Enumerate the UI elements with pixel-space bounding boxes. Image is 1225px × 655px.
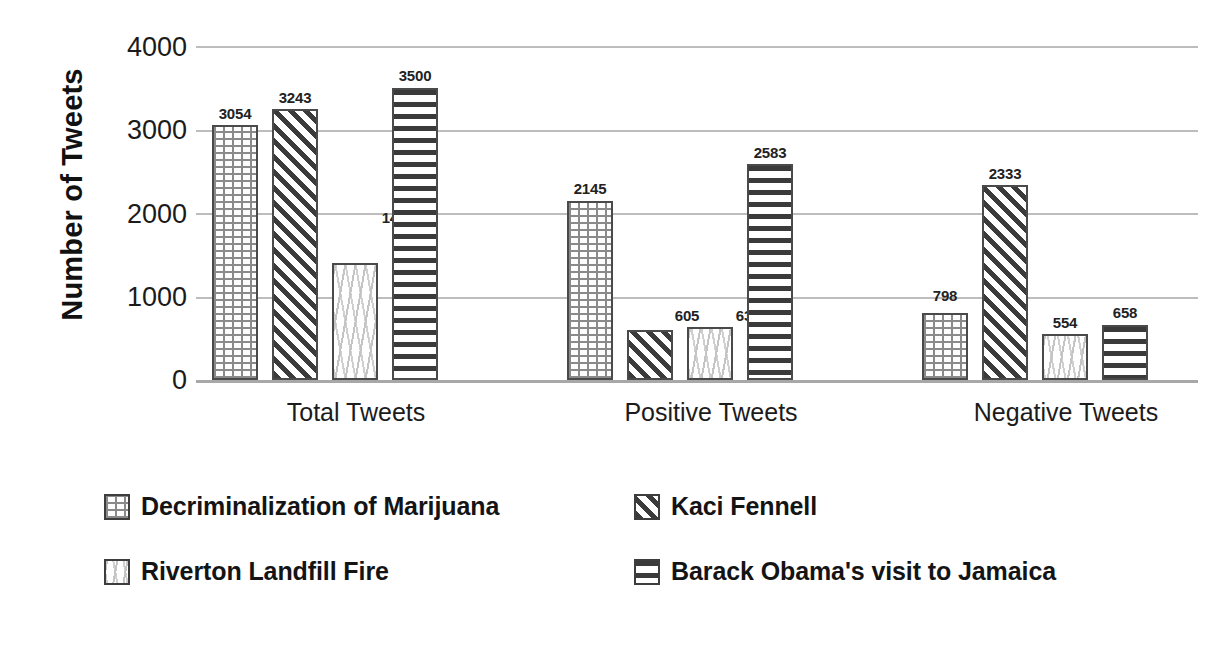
- bar-total-kaci[interactable]: [272, 109, 318, 380]
- bar-group-negative-tweets: 798 2333 554 658: [906, 46, 1225, 380]
- y-tick-label-2000: 2000: [67, 199, 187, 230]
- bar-value-total-marijuana: 3054: [219, 105, 252, 122]
- y-tick-label-0: 0: [67, 365, 187, 396]
- y-tick-label-3000: 3000: [67, 115, 187, 146]
- bar-value-positive-obama: 2583: [754, 144, 787, 161]
- x-category-label-positive-tweets: Positive Tweets: [551, 398, 871, 427]
- bar-group-total-tweets: 3054 3243 1407 3500: [196, 46, 516, 380]
- bar-negative-marijuana[interactable]: [922, 313, 968, 380]
- bar-positive-kaci[interactable]: [627, 330, 673, 381]
- bar-value-positive-marijuana: 2145: [574, 180, 607, 197]
- legend-item-riverton-landfill-fire[interactable]: Riverton Landfill Fire: [104, 557, 634, 586]
- bar-positive-obama[interactable]: [747, 164, 793, 380]
- legend-item-barack-obama-visit[interactable]: Barack Obama's visit to Jamaica: [634, 557, 1144, 586]
- legend-label-riverton-landfill-fire: Riverton Landfill Fire: [141, 557, 389, 586]
- legend-swatch-horizontal-lines-icon: [634, 559, 660, 585]
- legend-swatch-diagonal-hatch-icon: [634, 494, 660, 520]
- y-tick-label-1000: 1000: [67, 282, 187, 313]
- bar-negative-kaci[interactable]: [982, 185, 1028, 380]
- x-category-label-total-tweets: Total Tweets: [196, 398, 516, 427]
- bar-value-positive-kaci: 605: [675, 307, 699, 324]
- bar-group-positive-tweets: 2145 605 633 2583: [551, 46, 871, 380]
- legend-swatch-dotted-grid-icon: [104, 494, 130, 520]
- bar-total-marijuana[interactable]: [212, 125, 258, 380]
- bar-value-negative-riverton: 554: [1053, 314, 1077, 331]
- legend-label-marijuana: Decriminalization of Marijuana: [141, 492, 499, 521]
- bar-positive-marijuana[interactable]: [567, 201, 613, 380]
- y-tick-label-4000: 4000: [67, 32, 187, 63]
- bar-value-total-kaci: 3243: [279, 89, 312, 106]
- bar-value-negative-marijuana: 798: [933, 287, 957, 304]
- x-category-label-negative-tweets: Negative Tweets: [906, 398, 1225, 427]
- chart-legend: Decriminalization of Marijuana Kaci Fenn…: [104, 492, 1144, 586]
- bar-chart-figure: Number of Tweets 4000 3000 2000 1000 0 3…: [0, 0, 1225, 655]
- bar-value-negative-obama: 658: [1113, 304, 1137, 321]
- legend-item-kaci-fennell[interactable]: Kaci Fennell: [634, 492, 1144, 521]
- bar-total-riverton[interactable]: [332, 263, 378, 381]
- plot-area: 3054 3243 1407 3500 2145 605: [196, 46, 1198, 380]
- legend-swatch-wavy-light-icon: [104, 559, 130, 585]
- bar-positive-riverton[interactable]: [687, 327, 733, 380]
- gridline-axis-zero: [196, 380, 1198, 383]
- bar-negative-riverton[interactable]: [1042, 334, 1088, 380]
- bar-total-obama[interactable]: [392, 88, 438, 380]
- bar-value-total-obama: 3500: [399, 67, 432, 84]
- bar-negative-obama[interactable]: [1102, 325, 1148, 380]
- legend-label-kaci-fennell: Kaci Fennell: [671, 492, 817, 521]
- legend-label-barack-obama-visit: Barack Obama's visit to Jamaica: [671, 557, 1056, 586]
- legend-item-marijuana[interactable]: Decriminalization of Marijuana: [104, 492, 634, 521]
- bar-value-negative-kaci: 2333: [989, 165, 1022, 182]
